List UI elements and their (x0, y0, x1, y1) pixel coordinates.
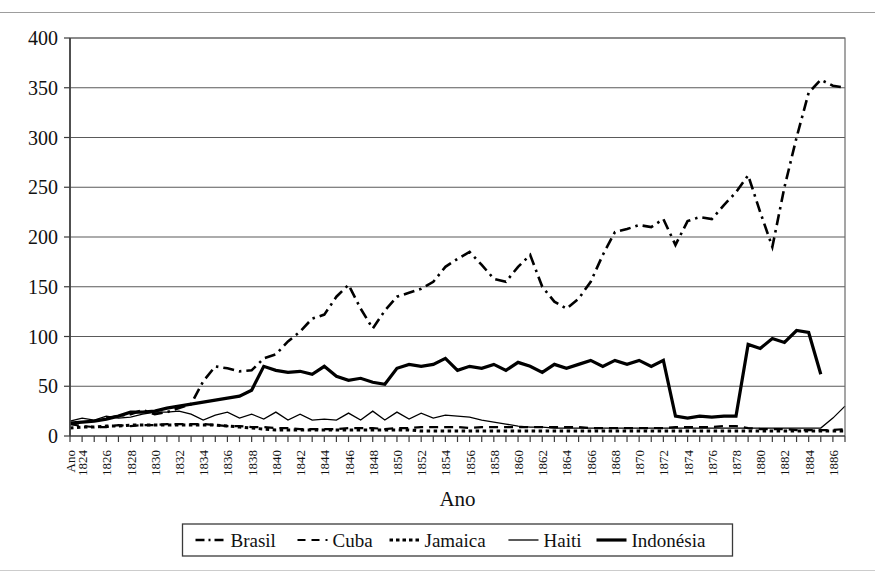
yaxis-tick-label: 350 (28, 77, 58, 99)
yaxis-tick-label: 200 (28, 226, 58, 248)
yaxis-tick-label: 150 (28, 276, 58, 298)
xaxis-tick-label: 1828 (124, 450, 139, 476)
series-line-indonsia (70, 331, 821, 424)
legend-label: Indonésia (632, 530, 706, 551)
xaxis-tick-label: 1876 (705, 450, 720, 477)
yaxis-tick-label: 250 (28, 176, 58, 198)
xaxis-tick-label: 1856 (463, 450, 478, 477)
legend-entry-haiti[interactable]: Haiti (509, 530, 582, 551)
yaxis-tick-label: 50 (38, 375, 58, 397)
legend-entry-jamaica[interactable]: Jamaica (390, 530, 487, 551)
yaxis-tick-label: 100 (28, 326, 58, 348)
xaxis-ticks-group (70, 436, 845, 442)
legend-entry-indonsia[interactable]: Indonésia (597, 530, 706, 551)
series-group (70, 80, 845, 431)
xaxis-tick-label: 1846 (342, 450, 357, 477)
xaxis-tick-label: 1858 (487, 450, 502, 476)
xaxis-labels-group: Ano1824182618281830183218341836183818401… (63, 450, 841, 477)
xaxis-tick-label: 1834 (196, 450, 211, 477)
xaxis-tick-label: 1830 (148, 450, 163, 476)
xaxis-tick-label: 1842 (293, 450, 308, 476)
legend-label: Jamaica (425, 530, 487, 551)
legend-group: BrasilCubaJamaicaHaitiIndonésia (183, 524, 733, 556)
xaxis-title-group: Ano (439, 487, 475, 511)
xaxis-tick-label: 1854 (438, 450, 453, 477)
xaxis-tick-label: 1836 (220, 450, 235, 477)
xaxis-tick-label: 1862 (535, 450, 550, 476)
xaxis-tick-label: 1870 (632, 450, 647, 476)
xaxis-tick-label: 1874 (681, 450, 696, 477)
series-line-cuba (70, 424, 845, 430)
xaxis-tick-label: 1844 (317, 450, 332, 477)
legend-label: Haiti (544, 530, 582, 551)
xaxis-tick-label: 1878 (729, 450, 744, 476)
xaxis-tick-label: 1832 (172, 450, 187, 476)
yaxis-labels-group: 050100150200250300350400 (28, 27, 58, 447)
legend-label: Cuba (333, 530, 374, 551)
xaxis-tick-label: 1864 (559, 450, 574, 477)
xaxis-tick-label: 1882 (777, 450, 792, 476)
legend-label: Brasil (231, 530, 276, 551)
gridlines-group (64, 38, 845, 436)
legend-entry-brasil[interactable]: Brasil (196, 530, 276, 551)
yaxis-tick-label: 300 (28, 127, 58, 149)
xaxis-tick-label: 1850 (390, 450, 405, 476)
xaxis-tick-label: 1884 (802, 450, 817, 477)
legend-entry-cuba[interactable]: Cuba (298, 530, 374, 551)
xaxis-tick-label: 1872 (656, 450, 671, 476)
line-chart: 050100150200250300350400 Ano182418261828… (0, 0, 875, 572)
yaxis-tick-label: 400 (28, 27, 58, 49)
yaxis-tick-label: 0 (48, 425, 58, 447)
xaxis-tick-label: 1838 (245, 450, 260, 476)
xaxis-tick-label: 1886 (826, 450, 841, 477)
xaxis-tick-label: 1824 (75, 450, 90, 477)
xaxis-tick-label: 1880 (753, 450, 768, 476)
xaxis-tick-label: 1866 (584, 450, 599, 477)
xaxis-tick-label: 1826 (99, 450, 114, 477)
xaxis-title: Ano (439, 487, 475, 511)
xaxis-tick-label: 1868 (608, 450, 623, 476)
xaxis-tick-label: 1848 (366, 450, 381, 476)
figure-container: 050100150200250300350400 Ano182418261828… (0, 0, 875, 572)
xaxis-tick-label: 1860 (511, 450, 526, 476)
xaxis-tick-label: 1852 (414, 450, 429, 476)
xaxis-tick-label: 1840 (269, 450, 284, 476)
